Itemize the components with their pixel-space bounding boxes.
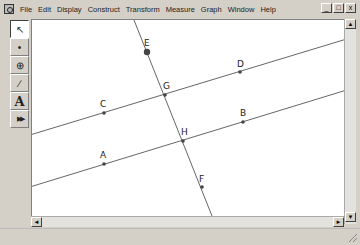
close-button[interactable]: x bbox=[345, 3, 356, 13]
scroll-left-button[interactable]: ◄ bbox=[31, 217, 42, 227]
scroll-up-button[interactable]: ▲ bbox=[345, 19, 356, 29]
text-tool[interactable]: A bbox=[10, 92, 29, 110]
menu-window[interactable]: Window bbox=[225, 5, 258, 14]
arrow-icon: ↖ bbox=[16, 24, 24, 35]
toolbox: ↖ • ⊕ ∕ A ▶▶ bbox=[10, 20, 29, 128]
scroll-right-button[interactable]: ► bbox=[333, 217, 344, 227]
text-icon: A bbox=[14, 94, 24, 109]
menu-transform[interactable]: Transform bbox=[123, 5, 163, 14]
point-icon: • bbox=[18, 42, 22, 53]
resize-grip-icon[interactable] bbox=[349, 234, 357, 242]
horizontal-scrollbar[interactable]: ◄ ► bbox=[31, 216, 344, 227]
minimize-button[interactable]: _ bbox=[321, 3, 332, 13]
menu-display[interactable]: Display bbox=[54, 5, 85, 14]
custom-tool[interactable]: ▶▶ bbox=[10, 110, 29, 128]
compass-tool[interactable]: ⊕ bbox=[10, 56, 29, 74]
menu-help[interactable]: Help bbox=[257, 5, 278, 14]
circle-icon: ⊕ bbox=[16, 60, 24, 71]
app-icon[interactable] bbox=[4, 4, 14, 14]
menu-construct[interactable]: Construct bbox=[85, 5, 123, 14]
menu-file[interactable]: File bbox=[17, 5, 35, 14]
point-tool[interactable]: • bbox=[10, 38, 29, 56]
restore-button[interactable]: □ bbox=[333, 3, 344, 13]
selection-arrow-tool[interactable]: ↖ bbox=[10, 20, 29, 38]
menu-bar: File Edit Display Construct Transform Me… bbox=[0, 0, 360, 18]
custom-tool-icon: ▶▶ bbox=[17, 115, 23, 123]
menu-measure[interactable]: Measure bbox=[163, 5, 198, 14]
straightedge-tool[interactable]: ∕ bbox=[10, 74, 29, 92]
sketchpad-window: File Edit Display Construct Transform Me… bbox=[0, 0, 360, 245]
scroll-down-button[interactable]: ▼ bbox=[345, 212, 356, 222]
vertical-scrollbar[interactable]: ▲ ▼ bbox=[344, 19, 356, 224]
sketch-canvas[interactable] bbox=[31, 19, 345, 224]
menu-graph[interactable]: Graph bbox=[198, 5, 225, 14]
line-icon: ∕ bbox=[19, 78, 21, 89]
menu-edit[interactable]: Edit bbox=[35, 5, 54, 14]
window-controls: _ □ x bbox=[321, 3, 356, 13]
status-bar bbox=[0, 228, 360, 245]
